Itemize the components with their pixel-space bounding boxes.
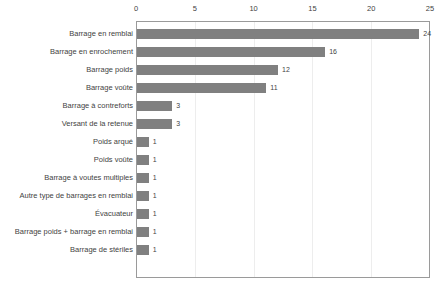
bar-value-label: 1 xyxy=(153,223,157,241)
category-label: Barrage à voutes multiples xyxy=(3,169,133,187)
chart-row[interactable]: Barrage poids12 xyxy=(0,61,443,79)
chart-row[interactable]: Évacuateur1 xyxy=(0,205,443,223)
chart-row[interactable]: Barrage voûte11 xyxy=(0,79,443,97)
category-label: Barrage en remblai xyxy=(3,25,133,43)
category-label: Barrage à contreforts xyxy=(3,97,133,115)
bar[interactable] xyxy=(137,65,278,75)
bar[interactable] xyxy=(137,101,172,111)
bar[interactable] xyxy=(137,191,149,201)
bar[interactable] xyxy=(137,227,149,237)
bar[interactable] xyxy=(137,137,149,147)
category-label: Barrage voûte xyxy=(3,79,133,97)
chart-row[interactable]: Barrage de stériles1 xyxy=(0,241,443,259)
category-label: Barrage poids xyxy=(3,61,133,79)
category-label: Évacuateur xyxy=(3,205,133,223)
category-label: Poids arqué xyxy=(3,133,133,151)
bar[interactable] xyxy=(137,245,149,255)
bar-value-label: 1 xyxy=(153,169,157,187)
bar-value-label: 16 xyxy=(329,43,337,61)
category-label: Barrage en enrochement xyxy=(3,43,133,61)
chart-row[interactable]: Barrage en remblai24 xyxy=(0,25,443,43)
bar-value-label: 12 xyxy=(282,61,290,79)
bar[interactable] xyxy=(137,29,419,39)
category-label: Barrage poids + barrage en remblai xyxy=(3,223,133,241)
x-axis-tick-labels: 0510152025 xyxy=(136,0,430,21)
bar[interactable] xyxy=(137,155,149,165)
chart-row[interactable]: Barrage poids + barrage en remblai1 xyxy=(0,223,443,241)
bar-value-label: 3 xyxy=(176,115,180,133)
x-axis-tick-25: 25 xyxy=(426,4,434,13)
chart-row[interactable]: Poids voûte1 xyxy=(0,151,443,169)
bar[interactable] xyxy=(137,209,149,219)
category-label: Autre type de barrages en remblai xyxy=(3,187,133,205)
chart-row[interactable]: Barrage en enrochement16 xyxy=(0,43,443,61)
category-label: Barrage de stériles xyxy=(3,241,133,259)
bar-value-label: 24 xyxy=(423,25,431,43)
bar[interactable] xyxy=(137,173,149,183)
x-axis-tick-15: 15 xyxy=(308,4,316,13)
bar[interactable] xyxy=(137,119,172,129)
x-axis-tick-0: 0 xyxy=(134,4,138,13)
bar-value-label: 3 xyxy=(176,97,180,115)
bar-value-label: 1 xyxy=(153,187,157,205)
bar-value-label: 11 xyxy=(270,79,277,97)
bar-value-label: 1 xyxy=(153,205,157,223)
x-axis-tick-5: 5 xyxy=(193,4,197,13)
bar-value-label: 1 xyxy=(153,133,157,151)
category-label: Versant de la retenue xyxy=(3,115,133,133)
x-axis-tick-20: 20 xyxy=(367,4,375,13)
chart-row[interactable]: Autre type de barrages en remblai1 xyxy=(0,187,443,205)
chart-row[interactable]: Barrage à voutes multiples1 xyxy=(0,169,443,187)
bar-value-label: 1 xyxy=(153,151,157,169)
bar[interactable] xyxy=(137,83,266,93)
chart-row[interactable]: Barrage à contreforts3 xyxy=(0,97,443,115)
bar-chart: 0510152025 Barrage en remblai24Barrage e… xyxy=(0,0,443,293)
category-label: Poids voûte xyxy=(3,151,133,169)
chart-row[interactable]: Versant de la retenue3 xyxy=(0,115,443,133)
x-axis-tick-10: 10 xyxy=(249,4,257,13)
bar-value-label: 1 xyxy=(153,241,157,259)
bar[interactable] xyxy=(137,47,325,57)
chart-row[interactable]: Poids arqué1 xyxy=(0,133,443,151)
chart-rows: Barrage en remblai24Barrage en enrocheme… xyxy=(0,0,443,293)
